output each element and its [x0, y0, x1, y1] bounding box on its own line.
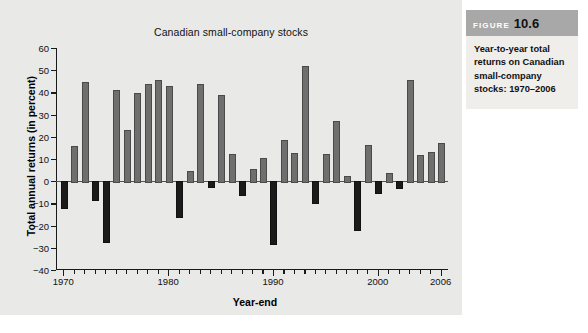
y-tick-mark [51, 115, 56, 116]
bar [61, 181, 68, 209]
x-tick-label: 1990 [262, 276, 283, 287]
bar [208, 181, 215, 187]
x-tick-mark [126, 270, 127, 274]
plot-area: −40−30−20−100102030405060 19701980199020… [56, 48, 448, 270]
y-tick-mark [51, 270, 56, 271]
bar [250, 169, 257, 183]
x-tick-mark [357, 270, 358, 274]
bar [417, 155, 424, 183]
y-tick-label: 20 [38, 131, 49, 142]
figure-root: Canadian small-company stocks Total annu… [0, 0, 588, 333]
bar [187, 171, 194, 183]
bar [333, 121, 340, 183]
y-tick-mark [51, 137, 56, 138]
y-tick-label: 60 [38, 43, 49, 54]
figure-number: 10.6 [514, 16, 539, 31]
x-tick-mark [262, 270, 263, 274]
bar [344, 176, 351, 183]
y-tick-label: 40 [38, 87, 49, 98]
x-tick-mark [221, 270, 222, 274]
x-tick-mark [84, 270, 85, 274]
x-tick-mark [367, 270, 368, 274]
bar [365, 145, 372, 183]
x-tick-label: 2000 [367, 276, 388, 287]
bar [281, 140, 288, 183]
x-tick-mark [304, 270, 305, 274]
x-tick-mark [179, 270, 180, 274]
x-tick-mark [105, 270, 106, 274]
x-tick-mark [315, 270, 316, 274]
figure-word: FIGURE [473, 21, 510, 30]
x-tick-mark [283, 270, 284, 274]
x-tick-label: 1980 [158, 276, 179, 287]
x-tick-mark [147, 270, 148, 274]
x-tick-mark [116, 270, 117, 274]
y-tick-label: −10 [33, 198, 49, 209]
y-tick-label: −20 [33, 220, 49, 231]
x-tick-mark [158, 270, 159, 274]
bar [386, 173, 393, 183]
figure-caption-header: FIGURE10.6 [466, 10, 578, 36]
bar [312, 181, 319, 204]
y-tick-mark [51, 70, 56, 71]
bar [124, 130, 131, 183]
y-tick-label: 50 [38, 65, 49, 76]
y-tick-label: −40 [33, 265, 49, 276]
x-tick-mark [325, 270, 326, 274]
y-tick-mark [51, 248, 56, 249]
bar [428, 152, 435, 183]
bar [229, 154, 236, 183]
y-tick-label: 10 [38, 154, 49, 165]
bar [270, 181, 277, 245]
x-tick-mark [231, 270, 232, 274]
x-tick-mark [420, 270, 421, 274]
bar [438, 143, 445, 183]
x-tick-label: 1970 [53, 276, 74, 287]
x-tick-mark [95, 270, 96, 274]
bar [407, 80, 414, 184]
x-tick-mark [189, 270, 190, 274]
bar [396, 181, 403, 189]
x-tick-mark [74, 270, 75, 274]
bar [323, 154, 330, 183]
figure-caption-text: Year-to-year total returns on Canadian s… [466, 36, 578, 109]
chart-panel: Canadian small-company stocks Total annu… [0, 0, 462, 315]
y-tick-mark [51, 159, 56, 160]
bar [134, 93, 141, 183]
y-tick-mark [51, 181, 56, 182]
x-tick-mark [242, 270, 243, 274]
chart-title: Canadian small-company stocks [0, 26, 462, 38]
bar [155, 80, 162, 184]
x-tick-mark [137, 270, 138, 274]
y-tick-mark [51, 48, 56, 49]
y-tick-label: 30 [38, 109, 49, 120]
x-tick-mark [252, 270, 253, 274]
bar [113, 90, 120, 183]
figure-caption-panel: FIGURE10.6 Year-to-year total returns on… [466, 10, 578, 109]
bar [176, 181, 183, 217]
x-axis-label: Year-end [55, 296, 455, 308]
bar [239, 181, 246, 195]
bar [218, 95, 225, 183]
bar [354, 181, 361, 231]
y-tick-mark [51, 203, 56, 204]
x-tick-mark [409, 270, 410, 274]
bar [82, 82, 89, 183]
y-tick-label: 0 [44, 176, 49, 187]
x-tick-mark [346, 270, 347, 274]
y-tick-mark [51, 92, 56, 93]
x-tick-mark [210, 270, 211, 274]
bar [291, 153, 298, 183]
x-tick-mark [399, 270, 400, 274]
bar [166, 86, 173, 183]
bar [302, 66, 309, 183]
bar [103, 181, 110, 243]
x-tick-mark [388, 270, 389, 274]
x-tick-mark [294, 270, 295, 274]
y-axis-line [56, 48, 57, 270]
y-tick-label: −30 [33, 242, 49, 253]
y-tick-mark [51, 226, 56, 227]
bar [71, 146, 78, 184]
x-tick-mark [336, 270, 337, 274]
bar [260, 158, 267, 184]
